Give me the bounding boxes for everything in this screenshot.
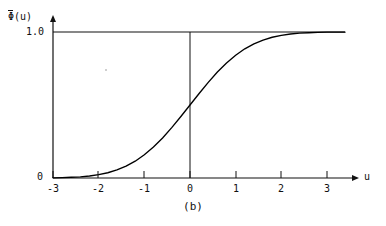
y-axis-arrowhead [50,15,56,22]
y-axis-label-argument: (u) [14,11,32,22]
x-axis-group [53,175,359,181]
x-tick-label-2: 2 [271,183,291,194]
y-tick-label-1.0: 1.0 [26,26,44,37]
figure-caption: (b) [0,200,386,213]
figure-container: Φ(u) 1.0 0 u -3 -2 -1 0 1 2 3 (b) [0,0,386,226]
x-axis-arrowhead [352,175,359,181]
x-tick-label--2: -2 [88,183,108,194]
x-axis-label: u [364,171,370,182]
x-tick-label-0: 0 [180,183,200,194]
normal-cdf-curve [53,32,345,178]
scan-artifact-speck [105,69,107,71]
y-axis-group [50,15,56,178]
x-tick-label--3: -3 [43,183,63,194]
y-tick-label-0: 0 [37,171,43,182]
x-tick-label-3: 3 [317,183,337,194]
x-tick-label-1: 1 [226,183,246,194]
x-tick-label--1: -1 [134,183,154,194]
y-axis-label: Φ(u) [8,10,32,22]
y-axis-label-symbol: Φ [8,10,14,22]
